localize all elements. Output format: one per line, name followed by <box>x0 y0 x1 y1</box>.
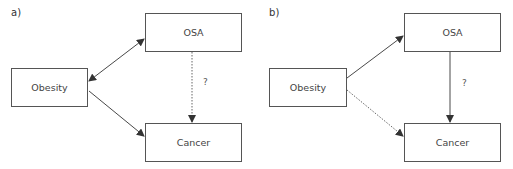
question-mark-label: ? <box>462 78 467 88</box>
node-obesity-label: Obesity <box>31 82 67 93</box>
node-osa-label: OSA <box>442 27 462 38</box>
node-osa: OSA <box>404 13 501 52</box>
node-cancer: Cancer <box>404 123 501 162</box>
diagram-panel-a: a) OSA Obesity Cancer ? <box>0 0 256 169</box>
edge-obesity-osa-bidirectional <box>89 39 144 81</box>
node-obesity: Obesity <box>11 68 88 107</box>
edge-obesity-osa <box>347 36 403 78</box>
node-cancer-label: Cancer <box>177 137 210 148</box>
diagram-panel-b: b) OSA Obesity Cancer ? <box>258 0 513 169</box>
node-obesity-label: Obesity <box>290 82 326 93</box>
node-osa-label: OSA <box>183 27 203 38</box>
node-obesity: Obesity <box>269 68 347 107</box>
node-cancer-label: Cancer <box>436 137 469 148</box>
node-cancer: Cancer <box>145 123 242 162</box>
edge-obesity-cancer-dotted <box>347 90 403 136</box>
panel-label-a: a) <box>11 7 21 18</box>
question-mark-label: ? <box>203 77 208 87</box>
panel-label-b: b) <box>269 7 280 18</box>
node-osa: OSA <box>145 13 242 52</box>
edge-obesity-cancer <box>89 91 144 136</box>
